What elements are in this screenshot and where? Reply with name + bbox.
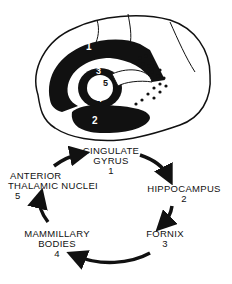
- node-hippocampus: HIPPOCAMPUS 2: [144, 184, 224, 204]
- node-anterior-thalamic-nuclei: ANTERIOR THALAMIC NUCLEI 5: [8, 171, 106, 201]
- svg-text:3: 3: [96, 66, 101, 76]
- svg-text:5: 5: [103, 78, 108, 88]
- node-mammillary-bodies: MAMMILLARY BODIES 4: [20, 229, 94, 259]
- svg-text:4: 4: [97, 94, 102, 104]
- node-fornix: FORNIX 3: [140, 229, 190, 249]
- svg-text:2: 2: [92, 115, 98, 126]
- svg-text:1: 1: [86, 41, 92, 52]
